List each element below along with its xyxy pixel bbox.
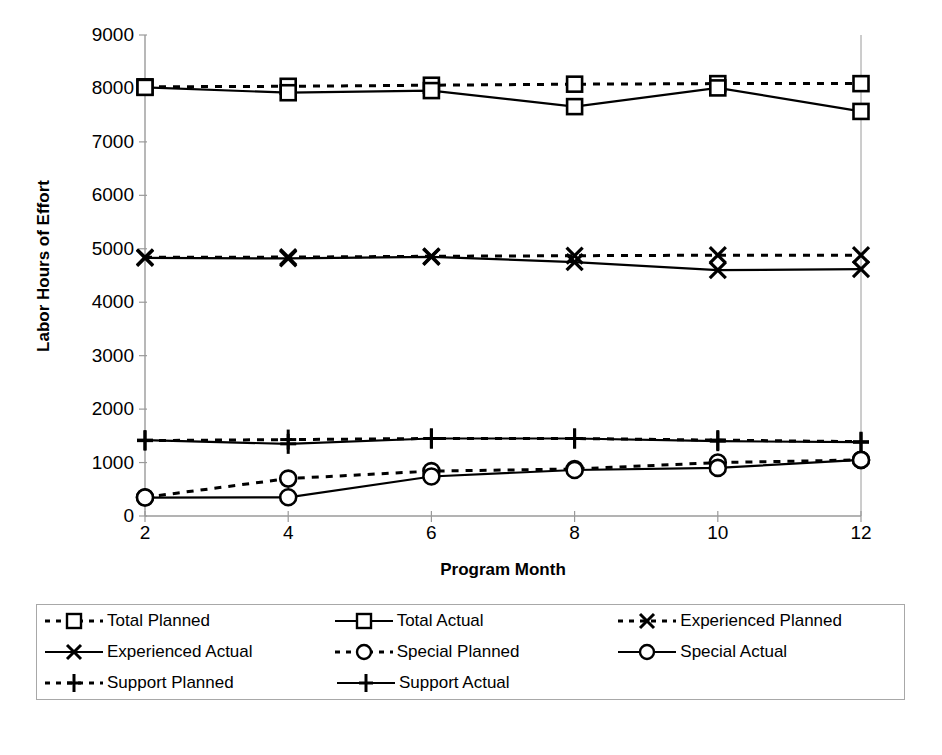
data-point-circle-marker [567,462,583,478]
data-point-circle-marker [137,490,153,506]
series-special-actual [137,452,869,506]
legend-sample-square [333,610,395,632]
y-tick-label: 9000 [46,25,134,44]
legend-row: Support PlannedSupport Actual [37,667,904,698]
legend-sample-circle [333,641,395,663]
line-chart-plot [0,0,942,600]
series-support-planned [137,429,869,452]
x-tick-label: 6 [401,522,461,544]
y-tick-label: 2000 [46,399,134,418]
data-point-square-marker [281,85,296,100]
chart-series-group [137,76,869,505]
legend-sample-circle [616,641,678,663]
legend-item-label: Support Planned [105,673,234,693]
legend-item-support-planned[interactable]: Support Planned [43,667,335,698]
legend-sample-x [616,610,678,632]
legend-item-support-actual[interactable]: Support Actual [335,667,621,698]
x-tick-label: 2 [115,522,175,544]
series-experienced-actual [137,249,869,278]
data-point-plus-marker [710,431,726,451]
data-point-circle-marker [280,471,296,487]
legend-item-total-planned[interactable]: Total Planned [43,605,333,636]
y-tick-label: 4000 [46,292,134,311]
x-tick-label: 8 [545,522,605,544]
data-point-square-marker [424,83,439,98]
y-tick-label: 8000 [46,78,134,97]
legend-row: Total PlannedTotal ActualExperienced Pla… [37,605,904,636]
data-point-plus-marker [853,432,869,452]
data-point-circle-marker [853,452,869,468]
legend-item-label: Experienced Planned [678,611,842,631]
data-point-square-marker [567,99,582,114]
legend-item-label: Total Actual [395,611,484,631]
data-point-square-marker [710,80,725,95]
y-tick-label: 7000 [46,132,134,151]
legend-item-special-planned[interactable]: Special Planned [333,636,617,667]
data-point-square-marker [854,104,869,119]
chart-figure: Labor Hours of Effort Program Month 0100… [0,0,942,600]
y-tick-label: 1000 [46,453,134,472]
legend-item-label: Experienced Actual [105,642,253,662]
chart-page: Labor Hours of Effort Program Month 0100… [0,0,942,755]
legend-item-label: Support Actual [397,673,510,693]
data-point-square-marker [854,76,869,91]
legend-item-label: Special Planned [395,642,520,662]
data-point-plus-marker [137,430,153,450]
x-tick-label: 10 [688,522,748,544]
legend-item-label: Total Planned [105,611,210,631]
data-point-square-marker [567,77,582,92]
legend-item-total-actual[interactable]: Total Actual [333,605,617,636]
legend-item-experienced-planned[interactable]: Experienced Planned [616,605,904,636]
y-tick-label: 3000 [46,346,134,365]
x-tick-label: 4 [258,522,318,544]
data-point-plus-marker [423,429,439,449]
data-point-plus-marker [567,429,583,449]
data-point-square-marker [138,80,153,95]
data-point-circle-marker [423,468,439,484]
legend-item-special-actual[interactable]: Special Actual [616,636,904,667]
data-point-plus-marker [280,434,296,454]
x-axis-title: Program Month [145,560,861,580]
data-point-circle-marker [710,460,726,476]
legend-sample-square [43,610,105,632]
chart-legend: Total PlannedTotal ActualExperienced Pla… [36,604,905,700]
legend-item-experienced-actual[interactable]: Experienced Actual [43,636,333,667]
y-tick-label: 5000 [46,239,134,258]
y-tick-label: 6000 [46,185,134,204]
legend-row: Experienced ActualSpecial PlannedSpecial… [37,636,904,667]
legend-sample-plus [335,672,397,694]
series-experienced-planned [137,247,869,265]
legend-sample-x [43,641,105,663]
legend-sample-plus [43,672,105,694]
x-tick-label: 12 [831,522,891,544]
data-point-circle-marker [280,489,296,505]
legend-item-label: Special Actual [678,642,787,662]
